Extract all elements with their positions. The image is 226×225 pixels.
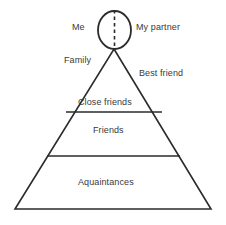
label-me: Me [72, 22, 85, 32]
label-aquaintances: Aquaintances [78, 177, 134, 187]
label-friends: Friends [93, 125, 124, 135]
social-pyramid-diagram: Me My partner Family Best friend Close f… [0, 0, 226, 225]
label-my-partner: My partner [136, 22, 180, 32]
label-close-friends: Close friends [78, 97, 132, 107]
diagram-canvas [0, 0, 226, 225]
label-family: Family [64, 55, 91, 65]
label-best-friend: Best friend [139, 68, 183, 78]
